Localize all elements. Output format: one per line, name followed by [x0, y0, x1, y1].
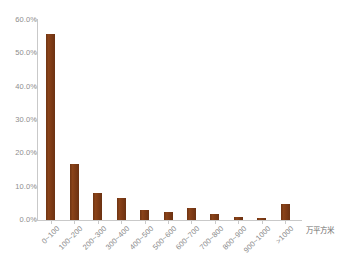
y-axis-tick-label: 50.0%	[4, 48, 37, 57]
x-axis-tick-mark	[51, 221, 52, 224]
x-axis-tick-mark	[145, 221, 146, 224]
bar[interactable]	[46, 34, 55, 220]
x-axis-tick-mark	[215, 221, 216, 224]
bar[interactable]	[93, 193, 102, 220]
y-axis-tick-label: 10.0%	[4, 182, 37, 191]
x-axis-tick-mark	[74, 221, 75, 224]
x-axis-unit-label: 万平方米	[306, 224, 334, 235]
bar[interactable]	[164, 212, 173, 220]
x-axis-tick-mark	[285, 221, 286, 224]
x-axis-tick-mark	[98, 221, 99, 224]
bar[interactable]	[70, 164, 79, 220]
bar[interactable]	[187, 208, 196, 220]
x-axis-tick-mark	[121, 221, 122, 224]
y-axis-tick-label: 60.0%	[4, 15, 37, 24]
bar[interactable]	[234, 217, 243, 220]
x-axis-tick-mark	[191, 221, 192, 224]
bar-chart: 60.0%50.0%40.0%30.0%20.0%10.0%0.0% 万平方米 …	[0, 0, 338, 274]
y-axis-tick-label: 40.0%	[4, 82, 37, 91]
x-axis-tick-mark	[238, 221, 239, 224]
bar[interactable]	[140, 210, 149, 220]
bar[interactable]	[210, 214, 219, 220]
x-axis-tick-mark	[262, 221, 263, 224]
bar[interactable]	[117, 198, 126, 220]
x-axis-tick-mark	[168, 221, 169, 224]
bar[interactable]	[257, 218, 266, 220]
y-axis-tick-label: 0.0%	[4, 215, 37, 224]
bar[interactable]	[281, 204, 290, 220]
y-axis-tick-label: 30.0%	[4, 115, 37, 124]
y-axis-tick-group: 60.0%50.0%40.0%30.0%20.0%10.0%0.0%	[0, 0, 37, 274]
y-axis-tick-label: 20.0%	[4, 148, 37, 157]
